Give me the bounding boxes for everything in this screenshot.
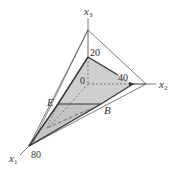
tick-label-80: 80 [31,149,41,160]
x2-axis-label: x2 [158,78,168,92]
tick-label-20: 20 [90,47,100,58]
point-label-e: E [46,96,54,108]
origin-label: 0 [80,75,85,86]
x1-axis-label: x1 [8,152,18,166]
tick-label-40: 40 [118,72,128,83]
x3-axis-label: x3 [83,5,93,19]
arrowhead-x2 [129,82,135,86]
x1-axis [20,146,29,155]
polytope-diagram: x3 x2 x1 20 40 80 0 E B [0,0,177,177]
point-label-b: B [104,104,111,116]
